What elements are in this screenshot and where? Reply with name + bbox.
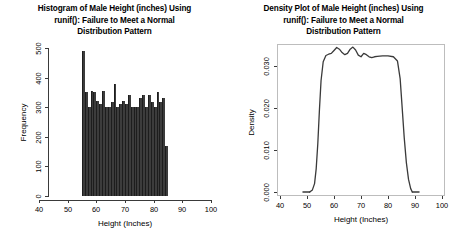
histogram-bars [0, 48, 229, 196]
histogram-x-tick-40 [39, 200, 40, 203]
histogram-x-ticklabel-60: 60 [86, 205, 106, 214]
histogram-x-tick-80 [154, 200, 155, 203]
histogram-x-tick-50 [68, 200, 69, 203]
density-curve-path [310, 47, 413, 192]
histogram-x-ticklabel-90: 90 [172, 205, 192, 214]
histogram-x-ticklabel-40: 40 [29, 205, 49, 214]
histogram-title: Histogram of Male Height (inches) Using … [0, 3, 229, 38]
density-curve-svg [229, 0, 458, 241]
histogram-x-axis-title: Height (Inches) [55, 219, 195, 228]
histogram-title-line-3: Distribution Pattern [0, 26, 229, 38]
histogram-x-tick-100 [211, 200, 212, 203]
histogram-x-ticklabel-80: 80 [144, 205, 164, 214]
histogram-bar [165, 146, 168, 196]
histogram-x-tick-60 [96, 200, 97, 203]
histogram-x-tick-70 [125, 200, 126, 203]
histogram-x-ticklabel-70: 70 [115, 205, 135, 214]
histogram-x-ticklabel-50: 50 [58, 205, 78, 214]
histogram-title-line-1: Histogram of Male Height (inches) Using [0, 3, 229, 15]
histogram-x-tick-90 [182, 200, 183, 203]
density-panel: Density Plot of Male Height (inches) Usi… [229, 0, 458, 241]
histogram-title-line-2: runif(): Failure to Meet a Normal [0, 15, 229, 27]
histogram-x-ticklabel-100: 100 [201, 205, 221, 214]
histogram-panel: Histogram of Male Height (inches) Using … [0, 0, 229, 241]
histogram-y-tick-0 [45, 196, 48, 197]
figure-canvas: Histogram of Male Height (inches) Using … [0, 0, 458, 241]
